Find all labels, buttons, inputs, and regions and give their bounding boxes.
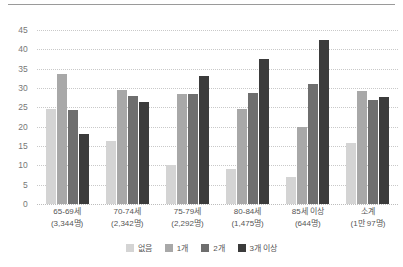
x-category-line1: 65-69세 (53, 207, 80, 216)
y-tick-label-10: 10 (18, 160, 28, 170)
bar (177, 94, 187, 204)
bar (139, 102, 149, 204)
x-category-label: 70-74세(2,342명) (97, 206, 157, 236)
gridline-0 (37, 204, 398, 205)
legend-label: 1개 (177, 242, 188, 253)
bars (338, 24, 398, 204)
bar (259, 59, 269, 204)
bar-group (338, 24, 398, 204)
x-category-label: 소계(1만 97명) (338, 206, 398, 236)
x-category-label: 65-69세(3,344명) (37, 206, 97, 236)
x-category-line2: (2,342명) (97, 218, 157, 230)
legend-item[interactable]: 3개 이상 (238, 242, 278, 253)
y-tick-label-25: 25 (18, 102, 28, 112)
bar (68, 110, 78, 204)
bar (166, 165, 176, 204)
legend-swatch-icon (238, 244, 246, 252)
x-category-line2: (2,292명) (157, 218, 217, 230)
bars (157, 24, 217, 204)
bar (319, 40, 329, 204)
bar (297, 127, 307, 204)
bar (237, 109, 247, 204)
bar (379, 97, 389, 204)
x-category-line2: (644명) (278, 218, 338, 230)
bar (346, 143, 356, 204)
x-category-line2: (3,344명) (37, 218, 97, 230)
bar-group (278, 24, 338, 204)
bar (117, 90, 127, 204)
x-category-line2: (1,475명) (218, 218, 278, 230)
bar (226, 169, 236, 204)
bar (248, 93, 258, 204)
y-tick-label-35: 35 (18, 64, 28, 74)
bars (278, 24, 338, 204)
bars (97, 24, 157, 204)
x-category-line1: 80-84세 (234, 207, 261, 216)
chart-legend: 없음1개2개3개 이상 (0, 242, 403, 253)
bar-chart: 454035302520151050 65-69세(3,344명)70-74세(… (0, 0, 403, 267)
y-tick-label-30: 30 (18, 83, 28, 93)
y-tick-label-5: 5 (23, 180, 28, 190)
legend-swatch-icon (165, 244, 173, 252)
bars (218, 24, 278, 204)
y-tick-label-0: 0 (23, 199, 28, 209)
legend-label: 3개 이상 (250, 242, 278, 253)
x-category-label: 85세 이상(644명) (278, 206, 338, 236)
bar (79, 134, 89, 204)
bar (308, 84, 318, 204)
bar-group (97, 24, 157, 204)
bars (37, 24, 97, 204)
legend-item[interactable]: 없음 (126, 242, 152, 253)
bar (188, 94, 198, 204)
bar-group (218, 24, 278, 204)
bar (57, 74, 67, 204)
y-tick-label-45: 45 (18, 25, 28, 35)
top-divider (8, 4, 395, 5)
bar-group (37, 24, 97, 204)
y-tick-label-40: 40 (18, 44, 28, 54)
x-category-line2: (1만 97명) (338, 218, 398, 230)
y-axis: 454035302520151050 (0, 24, 32, 204)
x-category-line1: 85세 이상 (292, 207, 324, 216)
legend-label: 2개 (213, 242, 224, 253)
bar (286, 177, 296, 204)
bar (368, 100, 378, 204)
bar (199, 76, 209, 204)
x-category-label: 80-84세(1,475명) (218, 206, 278, 236)
bar-groups (37, 24, 398, 204)
bar (106, 141, 116, 204)
x-axis-labels: 65-69세(3,344명)70-74세(2,342명)75-79세(2,292… (37, 206, 398, 236)
legend-swatch-icon (201, 244, 209, 252)
x-category-label: 75-79세(2,292명) (157, 206, 217, 236)
y-tick-label-20: 20 (18, 122, 28, 132)
legend-item[interactable]: 1개 (165, 242, 188, 253)
bar (46, 109, 56, 204)
y-tick-label-15: 15 (18, 141, 28, 151)
x-category-line1: 소계 (361, 207, 375, 216)
x-category-line1: 75-79세 (174, 207, 201, 216)
bar (357, 91, 367, 204)
legend-label: 없음 (138, 242, 152, 253)
legend-swatch-icon (126, 244, 134, 252)
x-category-line1: 70-74세 (114, 207, 141, 216)
bar (128, 96, 138, 204)
bar-group (157, 24, 217, 204)
legend-item[interactable]: 2개 (201, 242, 224, 253)
